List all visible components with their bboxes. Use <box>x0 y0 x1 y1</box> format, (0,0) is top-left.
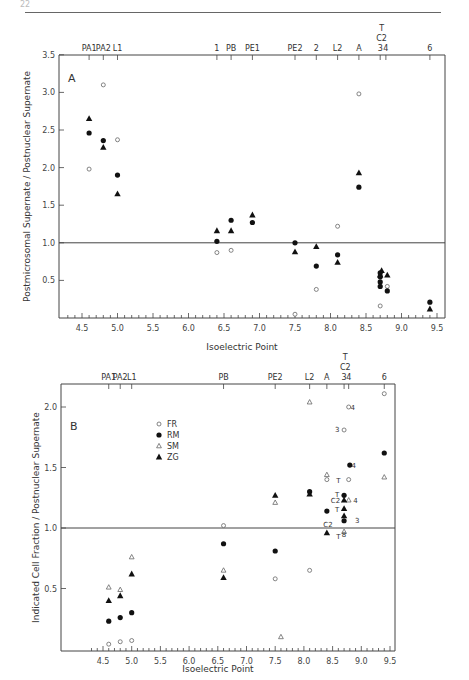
legend-marker <box>157 422 161 426</box>
data-point <box>87 130 92 135</box>
data-point <box>106 597 112 603</box>
point-annotation: 4 <box>350 404 355 412</box>
x-tick-label: 8.5 <box>360 324 373 333</box>
data-point <box>314 287 318 291</box>
data-point <box>129 571 135 577</box>
data-point <box>341 497 347 503</box>
protein-label: 2 <box>314 44 319 53</box>
legend-marker <box>156 432 161 437</box>
x-axis-label: Isoelectric Point <box>206 342 278 352</box>
x-tick-label: 6.0 <box>182 324 195 333</box>
protein-label: 3 <box>378 44 383 53</box>
data-point <box>347 478 351 482</box>
protein-label: PA2 <box>113 373 128 382</box>
protein-label: L1 <box>113 44 123 53</box>
protein-label: 6 <box>427 44 432 53</box>
data-point <box>222 524 226 528</box>
y-axis-label: Indicated Cell Fraction / Postnuclear Su… <box>31 412 41 623</box>
data-point <box>114 191 120 197</box>
data-point <box>385 288 390 293</box>
data-point <box>346 498 351 502</box>
data-point <box>107 642 111 646</box>
point-annotation: C2 <box>331 497 340 505</box>
data-point <box>229 218 234 223</box>
series-fr <box>87 83 389 316</box>
data-point <box>382 392 386 396</box>
data-point <box>341 505 347 511</box>
y-tick-label: 0.5 <box>44 585 57 594</box>
series-rm <box>87 130 433 304</box>
data-point <box>292 240 297 245</box>
x-tick-label: 9.0 <box>395 324 408 333</box>
figure: 4.55.05.56.06.57.07.58.08.59.09.50.51.01… <box>0 0 469 680</box>
protein-label: PA1 <box>82 44 97 53</box>
protein-label: L1 <box>127 373 137 382</box>
data-point <box>229 248 233 252</box>
legend: FRRMSMZG <box>156 420 180 462</box>
data-point <box>250 220 255 225</box>
x-tick-label: 5.5 <box>147 324 160 333</box>
panel-letter: B <box>70 420 78 433</box>
point-annotation: T <box>335 477 341 485</box>
protein-label: A <box>356 44 362 53</box>
data-point <box>385 284 389 288</box>
x-tick-label: 5.5 <box>154 657 167 666</box>
data-point <box>130 639 134 643</box>
legend-label: FR <box>167 420 178 429</box>
data-point <box>293 312 297 316</box>
protein-stack-label: C2 <box>376 34 387 43</box>
legend-label: ZG <box>167 453 179 462</box>
x-tick-label: 8.5 <box>326 657 339 666</box>
protein-label: L2 <box>333 44 343 53</box>
data-point <box>325 478 329 482</box>
x-tick-label: 7.5 <box>289 324 302 333</box>
point-annotation: 4 <box>352 462 357 470</box>
data-point <box>249 212 255 218</box>
data-point <box>115 173 120 178</box>
x-tick-label: 9.0 <box>355 657 368 666</box>
x-tick-label: 9.5 <box>431 324 444 333</box>
data-point <box>221 568 226 572</box>
data-point <box>273 500 278 504</box>
data-point <box>384 272 390 278</box>
data-point <box>334 259 340 265</box>
data-point <box>378 267 384 273</box>
data-point <box>117 592 123 598</box>
data-point <box>308 568 312 572</box>
y-tick-label: 0.5 <box>42 276 55 285</box>
protein-label: L2 <box>305 373 315 382</box>
x-axis-label: Isoelectric Point <box>182 664 254 674</box>
data-point <box>341 518 346 523</box>
data-point <box>118 587 123 591</box>
protein-stack-label: T <box>378 24 384 33</box>
chart-panel-a: 4.55.05.56.06.57.07.58.08.59.09.50.51.01… <box>22 24 445 352</box>
data-point <box>118 640 122 644</box>
protein-label: A <box>324 373 330 382</box>
protein-label: 4 <box>346 373 351 382</box>
chart-panel-b: 4.55.05.56.06.57.07.58.08.59.09.50.51.01… <box>31 353 396 674</box>
data-point <box>356 185 361 190</box>
x-tick-label: 5.0 <box>111 324 124 333</box>
data-point <box>100 144 106 150</box>
x-tick-label: 4.5 <box>97 657 110 666</box>
y-tick-label: 1.0 <box>42 239 55 248</box>
data-point <box>336 224 340 228</box>
data-point <box>221 541 226 546</box>
y-axis-label: Postmicrosomal Supernate / Postnuclear S… <box>22 71 32 302</box>
x-tick-label: 7.0 <box>253 324 266 333</box>
data-point <box>378 279 383 284</box>
data-point <box>314 264 319 269</box>
point-annotation: T <box>335 533 341 541</box>
panel-letter: A <box>68 72 76 85</box>
data-point <box>220 574 226 580</box>
data-point <box>106 619 111 624</box>
legend-label: SM <box>167 442 179 451</box>
data-point <box>427 300 432 305</box>
data-point <box>342 428 346 432</box>
point-annotation: 4 <box>353 497 358 505</box>
protein-label: 6 <box>382 373 387 382</box>
series-zg <box>106 491 348 603</box>
protein-stack-label: C2 <box>340 363 351 372</box>
x-tick-label: 5.0 <box>125 657 138 666</box>
data-point <box>378 304 382 308</box>
